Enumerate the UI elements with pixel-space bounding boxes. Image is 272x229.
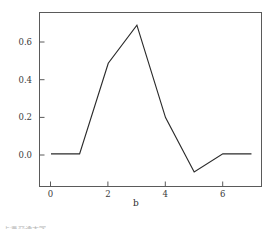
y-tick-label-0.4: 0.4 [8,75,32,84]
plot-frame [40,13,262,187]
x-tick-label-4: 4 [163,190,168,199]
x-tick-label-2: 2 [105,190,110,199]
y-tick-label-0.0: 0.0 [8,151,32,160]
y-tick-label-0.6: 0.6 [8,38,32,47]
line-chart-plot [0,0,272,229]
y-tick-label-0.2: 0.2 [8,113,32,122]
x-tick-label-6: 6 [220,190,225,199]
x-tick-label-0: 0 [48,190,53,199]
figure-container: 0.6 0.4 0.2 0.0 0 2 4 6 b 上海交通大学 [0,0,272,229]
x-axis-title: b [0,199,272,208]
bottom-caption-text: 上海交通大学 [3,226,47,229]
